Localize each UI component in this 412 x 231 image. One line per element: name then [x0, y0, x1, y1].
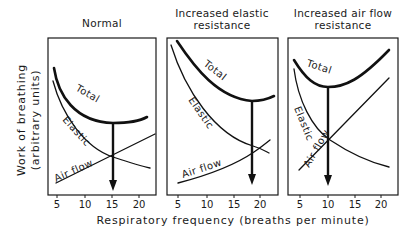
panel-title-line2: resistance [194, 19, 251, 31]
work-of-breathing-figure: Work of breathing (arbitrary units) Norm… [0, 0, 412, 231]
panel-title-line2: resistance [315, 19, 372, 31]
airflow-label: Air flow [52, 157, 94, 184]
elastic-label: Elastic [292, 105, 316, 143]
y-axis-label-line1: Work of breathing [15, 64, 28, 176]
x-ticks: 5 10 15 20 [175, 195, 267, 210]
tick-label: 20 [254, 199, 267, 210]
arrow-head-icon [324, 175, 332, 186]
tick-label: 20 [133, 199, 146, 210]
panel-title: Normal [82, 17, 122, 29]
tick-label: 5 [54, 199, 60, 210]
total-label: Total [201, 57, 229, 82]
x-axis-label: Respiratory frequency (breaths per minut… [96, 214, 369, 227]
tick-label: 10 [79, 199, 92, 210]
panel-normal: Normal 5 10 15 20 Total Elastic Air flow [48, 17, 156, 210]
panel-increased-elastic-resistance: Increased elastic resistance 5 10 15 20 … [167, 7, 278, 210]
elastic-label: Elastic [186, 95, 216, 131]
elastic-curve [171, 45, 269, 153]
tick-label: 15 [106, 199, 119, 210]
tick-label: 5 [175, 199, 181, 210]
tick-label: 20 [375, 199, 388, 210]
y-axis-label: Work of breathing (arbitrary units) [15, 64, 42, 176]
y-axis-label-line2: (arbitrary units) [29, 70, 42, 171]
x-ticks: 5 10 15 20 [54, 195, 146, 210]
panel-increased-airflow-resistance: Increased air flow resistance 5 10 15 20… [288, 7, 398, 210]
tick-label: 15 [228, 199, 241, 210]
tick-label: 5 [297, 199, 303, 210]
total-label: Total [73, 82, 102, 105]
panel-title-line1: Increased elastic [175, 7, 269, 19]
tick-label: 10 [322, 199, 335, 210]
arrow-head-icon [248, 174, 256, 185]
arrow-head-icon [109, 180, 117, 191]
total-label: Total [304, 57, 333, 76]
x-ticks: 5 10 15 20 [297, 195, 388, 210]
panel-title-line1: Increased air flow [294, 7, 393, 19]
tick-label: 10 [201, 199, 214, 210]
tick-label: 15 [349, 199, 362, 210]
